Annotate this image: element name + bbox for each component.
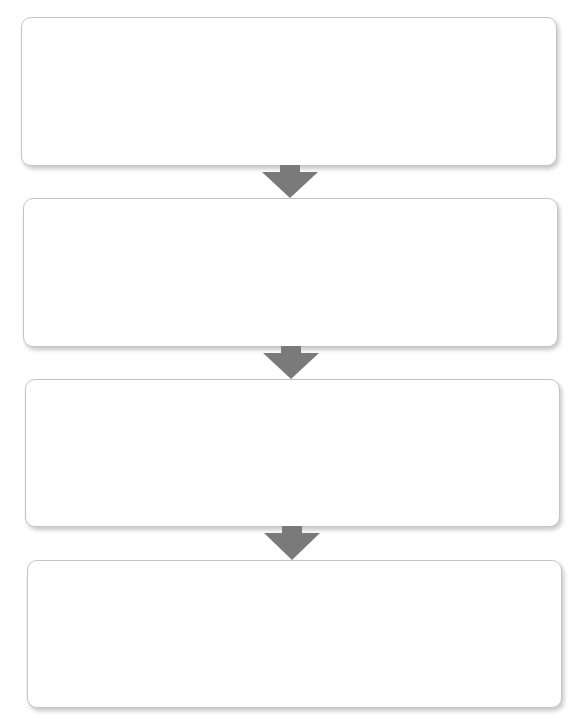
flow-step-2: [23, 198, 558, 347]
flow-step-3: [25, 379, 560, 527]
down-arrow-icon: [263, 346, 319, 378]
flow-step-4: [27, 560, 562, 708]
down-arrow-icon: [264, 526, 320, 558]
down-arrow-icon: [262, 165, 318, 197]
flow-step-1: [21, 17, 557, 166]
